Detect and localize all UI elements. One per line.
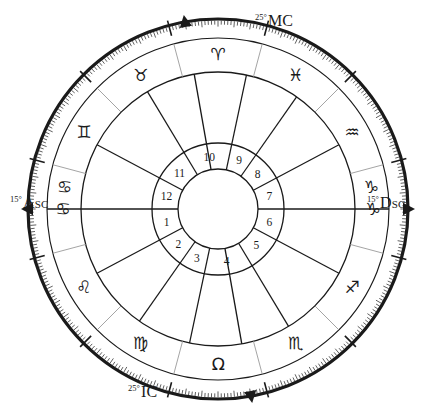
degree-tick-minor xyxy=(256,389,257,393)
degree-tick-minor xyxy=(124,46,127,51)
degree-tick-major xyxy=(168,21,172,36)
house-cusp-line xyxy=(147,92,197,175)
degree-tick-minor xyxy=(275,30,276,34)
degree-tick-minor xyxy=(335,65,339,70)
degree-tick-minor xyxy=(313,48,315,51)
degree-tick-minor xyxy=(392,148,396,149)
degree-tick-minor xyxy=(390,141,394,142)
degree-tick-minor xyxy=(389,271,395,273)
degree-tick-minor xyxy=(299,40,301,44)
degree-tick-minor xyxy=(394,154,398,155)
degree-tick-minor xyxy=(376,115,381,118)
degree-tick-minor xyxy=(394,263,398,264)
angle-name-dsc: Dsc xyxy=(380,194,406,211)
degree-tick-minor xyxy=(70,93,73,95)
degree-tick-minor xyxy=(272,385,273,389)
degree-tick-minor xyxy=(284,33,285,37)
degree-tick-minor xyxy=(132,41,134,45)
degree-tick-minor xyxy=(389,145,395,147)
sign-glyph-cancer: ♋ xyxy=(55,199,70,219)
sign-boundary-line xyxy=(253,341,262,374)
degree-tick-minor xyxy=(299,375,301,379)
degree-tick-minor xyxy=(365,320,368,322)
degree-tick-minor xyxy=(32,180,36,181)
degree-tick-minor xyxy=(357,330,360,333)
angle-axis-lines xyxy=(47,74,389,344)
degree-tick-minor xyxy=(34,247,38,248)
degree-tick-minor xyxy=(144,379,146,383)
degree-tick-minor xyxy=(341,69,344,72)
house-cusp-line xyxy=(97,228,183,274)
degree-tick-minor xyxy=(53,298,56,300)
degree-tick-minor xyxy=(49,290,53,292)
degree-tick-minor xyxy=(94,67,97,70)
sign-boundary-line xyxy=(97,88,121,112)
degree-tick-minor xyxy=(398,167,402,168)
degree-tick-minor xyxy=(41,145,47,147)
degree-tick-minor xyxy=(305,372,307,376)
degree-tick-minor xyxy=(192,22,193,26)
degree-tick-minor xyxy=(94,348,97,351)
degree-tick-major xyxy=(168,382,172,397)
degree-tick-minor xyxy=(389,138,393,139)
sign-glyph-gemini: ♊ xyxy=(76,122,91,142)
degree-tick-minor xyxy=(278,31,279,35)
degree-tick-minor xyxy=(367,98,370,100)
degree-tick-minor xyxy=(389,278,393,279)
degree-tick-minor xyxy=(353,335,356,338)
degree-tick-minor xyxy=(160,30,161,34)
degree-tick-minor xyxy=(68,96,71,98)
degree-tick-minor xyxy=(379,298,382,300)
degree-tick-minor xyxy=(118,49,120,52)
degree-tick-minor xyxy=(99,63,102,66)
sign-boundary-line xyxy=(315,306,339,330)
degree-tick-minor xyxy=(351,78,354,81)
degree-tick-minor xyxy=(105,59,107,62)
degree-tick-minor xyxy=(34,167,38,168)
degree-tick-minor xyxy=(250,23,251,29)
degree-tick-minor xyxy=(47,129,52,132)
degree-tick-minor xyxy=(365,96,368,98)
degree-tick-minor xyxy=(318,51,320,54)
degree-tick-minor xyxy=(398,250,402,251)
degree-tick-minor xyxy=(50,123,54,125)
degree-tick-minor xyxy=(293,377,295,381)
degree-tick-minor xyxy=(390,275,394,276)
degree-tick-minor xyxy=(398,176,404,177)
degree-tick-minor xyxy=(388,135,392,137)
degree-tick-minor xyxy=(49,126,53,128)
sign-boundary-line xyxy=(350,165,383,174)
degree-tick-minor xyxy=(363,323,366,325)
degree-tick-minor xyxy=(46,284,50,286)
house-cusp-line xyxy=(97,145,183,191)
degree-tick-minor xyxy=(157,31,158,35)
house-number-10: 10 xyxy=(204,151,216,163)
degree-tick-minor xyxy=(37,157,41,158)
degree-tick-minor xyxy=(163,29,164,33)
degree-tick-minor xyxy=(358,326,363,330)
degree-tick-minor xyxy=(102,61,104,64)
degree-tick-minor xyxy=(97,65,101,70)
degree-tick-minor xyxy=(92,69,95,72)
angle-label-asc: 15°Asc xyxy=(10,194,49,212)
house-cusp-line xyxy=(239,243,289,326)
degree-tick-minor xyxy=(373,309,376,311)
degree-tick-minor xyxy=(400,225,406,226)
degree-tick-minor xyxy=(376,300,381,303)
degree-tick-minor xyxy=(287,380,288,384)
degree-tick-minor xyxy=(334,63,337,66)
sign-boundary-line xyxy=(53,244,86,253)
degree-tick-minor xyxy=(367,314,372,317)
degree-tick-minor xyxy=(321,53,323,56)
house-number-11: 11 xyxy=(174,167,185,179)
degree-tick-minor xyxy=(41,271,47,273)
degree-tick-minor xyxy=(357,85,360,88)
degree-tick-minor xyxy=(244,392,245,396)
degree-tick-minor xyxy=(40,148,44,149)
degree-tick-minor xyxy=(138,374,141,379)
degree-tick-minor xyxy=(82,337,85,340)
degree-tick-minor xyxy=(66,317,69,319)
angle-degree-asc: 15° xyxy=(10,194,22,204)
degree-tick-minor xyxy=(58,307,61,309)
degree-tick-minor xyxy=(247,23,248,27)
